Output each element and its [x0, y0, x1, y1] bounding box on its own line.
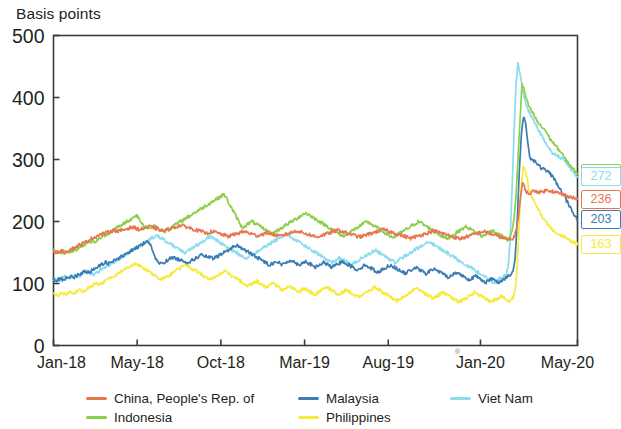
y-axis-tick-label: 400 — [12, 87, 45, 109]
scan-artifact-speck — [455, 348, 460, 354]
x-axis-tick-label: May-20 — [541, 354, 594, 371]
end-label-china-people-s-rep-of: 236 — [581, 190, 621, 209]
legend-item-philippines: Philippines — [298, 410, 450, 425]
end-label-viet-nam: 272 — [581, 167, 621, 186]
legend-swatch-malaysia — [298, 397, 319, 400]
legend-swatch-viet-nam — [450, 397, 471, 400]
legend-item-indonesia: Indonesia — [86, 410, 298, 425]
legend-item-malaysia: Malaysia — [298, 391, 450, 406]
legend-swatch-philippines — [298, 416, 319, 419]
legend-label-viet-nam: Viet Nam — [478, 391, 533, 406]
x-axis-tick-label: Oct-18 — [197, 354, 245, 371]
end-label-philippines: 163 — [581, 235, 621, 254]
x-axis-tick-label: Aug-19 — [362, 354, 414, 371]
legend-swatch-indonesia — [86, 416, 107, 419]
legend-label-china: China, People's Rep. of — [114, 391, 254, 406]
legend-label-indonesia: Indonesia — [114, 410, 172, 425]
y-axis-tick-label: 300 — [12, 149, 45, 171]
legend-item-china: China, People's Rep. of — [86, 391, 298, 406]
y-axis-tick-label: 200 — [12, 211, 45, 233]
x-axis-tick-label: May-18 — [111, 354, 164, 371]
end-label-malaysia: 203 — [581, 210, 621, 229]
x-axis-tick-label: Jan-18 — [37, 354, 86, 371]
y-axis-tick-label: 100 — [12, 273, 45, 295]
chart-legend: China, People's Rep. of Malaysia Viet Na… — [86, 389, 586, 427]
legend-label-malaysia: Malaysia — [326, 391, 379, 406]
legend-item-viet-nam: Viet Nam — [450, 391, 586, 406]
x-axis-tick-label: Mar-19 — [279, 354, 330, 371]
y-axis-ticks: 0100200300400500 — [12, 25, 60, 357]
legend-label-philippines: Philippines — [326, 410, 391, 425]
y-axis-tick-label: 500 — [12, 25, 45, 47]
x-axis-tick-label: Jan-20 — [456, 354, 505, 371]
legend-swatch-china — [86, 397, 107, 400]
